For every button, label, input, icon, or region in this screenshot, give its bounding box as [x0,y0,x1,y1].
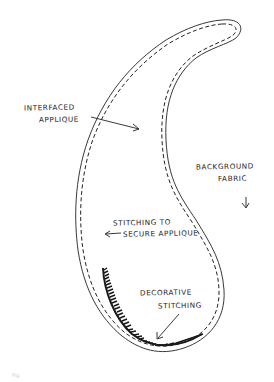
arrow-stitching-to-secure [105,231,121,237]
label-decorative-stitching-line2: STITCHING [158,301,202,311]
label-background-fabric-line1: BACKGROUND [196,161,254,171]
arrow-interfaced-applique [91,117,139,131]
label-background-fabric-line2: FABRIC [218,174,247,184]
arrow-decorative-stitching [157,314,179,339]
arrow-background-fabric [242,197,249,208]
label-interfaced-applique-line1: INTERFACED [24,103,75,113]
securing-stitch-line [81,24,236,346]
label-stitching-to-secure-line2: SECURE APPLIQUE [123,228,199,238]
figure-caption: Fig. [12,372,21,378]
label-decorative-stitching-line1: DECORATIVE [140,288,192,298]
label-interfaced-applique-line2: APPLIQUE [39,115,79,125]
applique-diagram [0,0,274,382]
label-stitching-to-secure-line1: STITCHING TO [113,217,171,227]
